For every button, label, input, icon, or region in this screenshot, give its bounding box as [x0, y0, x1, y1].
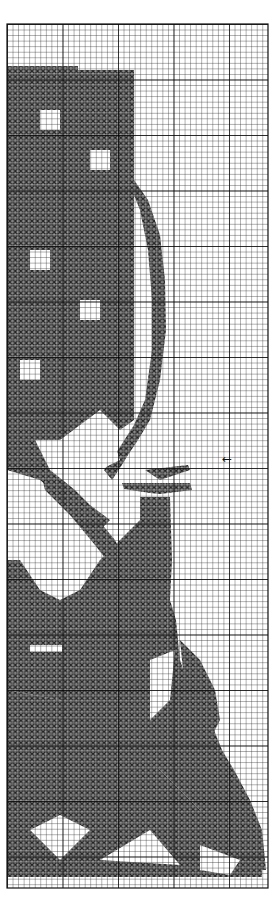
- cross-stitch-chart: [0, 0, 277, 902]
- arrow-left-icon: ←: [222, 453, 232, 465]
